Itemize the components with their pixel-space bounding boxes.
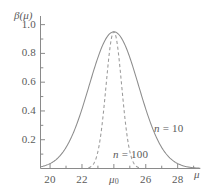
y-tick-label: 1.0 xyxy=(12,18,36,30)
x-axis-label: μ xyxy=(194,168,200,180)
x-tick-label: 20 xyxy=(34,173,66,185)
x-tick-label: 22 xyxy=(66,173,98,185)
y-tick-label: 0.4 xyxy=(12,104,36,116)
y-axis-major-ticks xyxy=(41,25,46,140)
curve-label-n-10: n = 10 xyxy=(154,122,183,134)
x-tick-label: 26 xyxy=(130,173,162,185)
y-tick-label: 0.8 xyxy=(12,46,36,58)
x-axis-major-ticks xyxy=(50,164,178,169)
curve-label-n-100: n = 100 xyxy=(113,148,148,160)
y-tick-label: 0.2 xyxy=(12,133,36,145)
power-function-chart: β(μ) μ 0.20.40.60.81.0 2022μ02628 n = 10… xyxy=(0,0,207,190)
x-tick-label: 28 xyxy=(162,173,194,185)
y-tick-label: 0.6 xyxy=(12,75,36,87)
x-tick-label: μ0 xyxy=(98,173,130,186)
